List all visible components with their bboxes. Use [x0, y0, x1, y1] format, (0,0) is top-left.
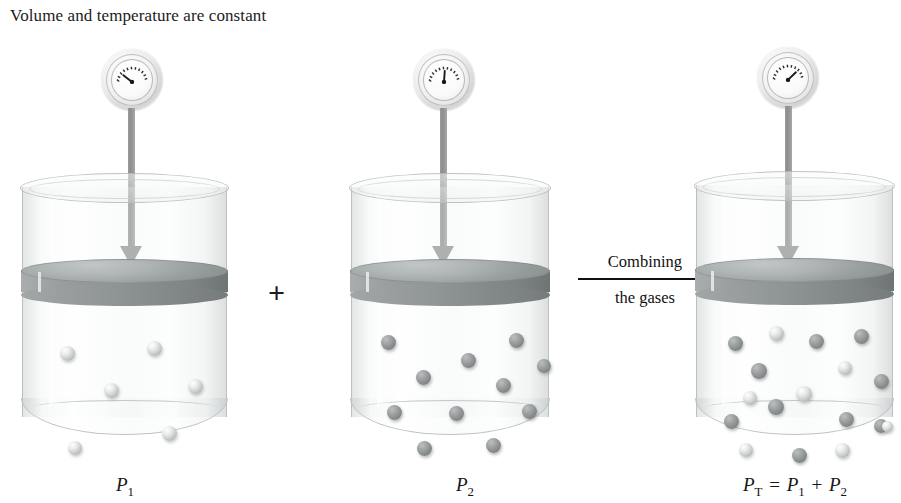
molecule-dark: [809, 334, 824, 349]
molecule-light: [739, 443, 753, 457]
molecule-dark: [461, 353, 476, 368]
figure-caption: Volume and temperature are constant: [10, 6, 266, 26]
equation-symbol: P: [829, 474, 841, 495]
molecule-light: [60, 346, 75, 361]
molecule-dark: [792, 448, 807, 463]
molecule-light: [796, 386, 812, 402]
label-2-subscript: 2: [468, 484, 474, 499]
molecule-group-2: [351, 173, 549, 435]
cylinder-1-pressure-label: P1: [45, 474, 205, 500]
molecule-dark: [416, 370, 431, 385]
combining-arrow-line: [578, 278, 699, 280]
gauge-face-1: [111, 59, 153, 101]
molecule-dark: [874, 374, 889, 389]
pressure-gauge-3: [757, 47, 819, 109]
molecule-light: [838, 361, 852, 375]
pressure-gauge-1: [101, 49, 163, 111]
label-1-subscript: 1: [128, 484, 134, 499]
cylinder-2-pressure-label: P2: [385, 474, 545, 500]
molecule-dark: [728, 336, 743, 351]
gauge-face-2: [423, 59, 465, 101]
molecule-dark: [724, 414, 739, 429]
combining-label-top: Combining: [578, 252, 712, 272]
molecule-dark: [449, 406, 464, 421]
molecule-light: [882, 421, 893, 432]
molecule-dark: [751, 363, 767, 379]
label-1-symbol: P: [116, 474, 128, 495]
molecule-dark: [522, 404, 537, 419]
molecule-dark: [537, 359, 551, 373]
molecule-dark: [496, 378, 511, 393]
molecule-light: [769, 326, 784, 341]
molecule-group-3: [696, 171, 893, 435]
molecule-dark: [387, 405, 402, 420]
gauge-face-3: [767, 57, 809, 99]
equation-symbol: P: [743, 474, 755, 495]
combining-label-bottom: the gases: [578, 288, 712, 308]
molecule-light: [68, 441, 82, 455]
molecule-light: [743, 391, 757, 405]
equation-symbol: P: [787, 474, 799, 495]
molecule-light: [188, 379, 203, 394]
molecule-light: [835, 443, 850, 458]
gauge-dial-2: [424, 60, 464, 100]
label-3-terms: PT = P1 + P2: [743, 474, 847, 495]
equation-operator: =: [762, 474, 786, 495]
molecule-light: [104, 383, 119, 398]
molecule-group-1: [22, 173, 227, 435]
label-2-symbol: P: [456, 474, 468, 495]
gauge-dial-3: [768, 58, 808, 98]
equation-operator: +: [805, 474, 829, 495]
cylinder-3-pressure-label: PT = P1 + P2: [690, 474, 900, 500]
molecule-dark: [854, 329, 869, 344]
molecule-light: [162, 426, 177, 441]
molecule-dark: [509, 333, 524, 348]
gauge-dial-1: [112, 60, 152, 100]
plus-operator: +: [268, 278, 285, 308]
equation-subscript: 1: [798, 484, 804, 499]
molecule-light: [147, 341, 162, 356]
molecule-dark: [839, 412, 854, 427]
molecule-dark: [417, 441, 432, 456]
molecule-dark: [381, 335, 396, 350]
figure-canvas: Volume and temperature are constant: [0, 0, 901, 503]
molecule-dark: [768, 399, 784, 415]
molecule-dark: [486, 438, 501, 453]
equation-subscript: 2: [841, 484, 847, 499]
combining-transition: Combining the gases: [578, 252, 712, 310]
pressure-gauge-2: [413, 49, 475, 111]
